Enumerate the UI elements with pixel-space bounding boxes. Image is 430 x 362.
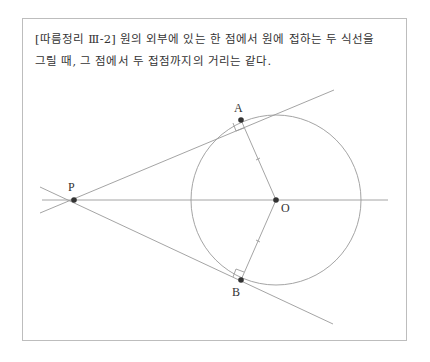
- label-p: P: [68, 180, 75, 194]
- point-p: [71, 197, 77, 203]
- radius-oa: [241, 120, 276, 200]
- radius-ob: [241, 200, 276, 280]
- label-o: O: [281, 201, 290, 215]
- tangent-line-pa: [40, 90, 334, 213]
- point-a: [238, 117, 244, 123]
- label-a: A: [234, 101, 243, 115]
- point-b: [238, 277, 244, 283]
- geometry-diagram: P A O B: [0, 0, 430, 362]
- point-o: [273, 197, 279, 203]
- label-b: B: [232, 285, 240, 299]
